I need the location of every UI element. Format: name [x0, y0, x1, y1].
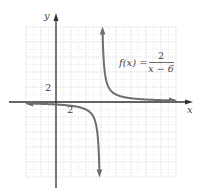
x-tick-label-2: 2 [67, 104, 73, 115]
curve-arrow-up-icon [100, 27, 106, 35]
y-tick-label-2: 2 [45, 82, 51, 93]
curve-left-branch [32, 104, 99, 174]
function-label-numerator: 2 [158, 50, 164, 61]
plot-canvas: x y 2 2 f(x) = 2 x − 6 [0, 0, 197, 193]
curve-arrow-down-icon [97, 169, 103, 177]
x-axis-label: x [187, 104, 193, 115]
y-axis-label: y [43, 10, 50, 21]
function-label-denominator: x − 6 [148, 63, 173, 74]
function-graph: x y 2 2 f(x) = 2 x − 6 [0, 0, 197, 193]
y-axis-arrow-icon [54, 13, 59, 21]
function-label-lhs: f(x) = [118, 57, 148, 68]
